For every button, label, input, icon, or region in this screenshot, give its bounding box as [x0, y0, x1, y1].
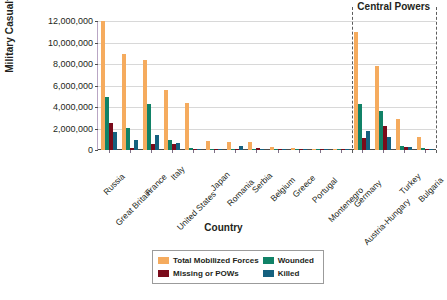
bar — [324, 149, 328, 150]
y-axis-tick-label: 4,000,000 — [53, 102, 93, 112]
legend-item[interactable]: Missing or POWs — [158, 269, 259, 278]
central-powers-divider-left — [352, 7, 353, 153]
bar — [126, 128, 130, 150]
bar-group — [183, 21, 204, 150]
bar — [155, 135, 159, 150]
legend-swatch — [158, 257, 169, 264]
y-axis-tick-label: 8,000,000 — [53, 59, 93, 69]
bar-groups — [98, 21, 436, 150]
y-axis-title-label: Military Casualties — [4, 0, 15, 88]
bar-group — [246, 21, 267, 150]
bar — [185, 103, 189, 150]
bar-group — [330, 21, 351, 150]
bar-group — [161, 21, 182, 150]
legend-item[interactable]: Killed — [263, 269, 318, 278]
bar-group — [415, 21, 436, 150]
legend-label: Total Mobilized Forces — [173, 256, 259, 265]
chart-legend: Total Mobilized ForcesWoundedMissing or … — [152, 250, 324, 284]
bar — [260, 149, 264, 150]
bar — [113, 132, 117, 150]
x-axis-tick-labels: RussiaGreat BritainFranceItalyUnited Sta… — [97, 153, 436, 213]
bar-group — [267, 21, 288, 150]
central-powers-label: Central Powers — [352, 1, 437, 12]
legend-item[interactable]: Total Mobilized Forces — [158, 256, 259, 265]
bar — [147, 104, 151, 150]
legend-item[interactable]: Wounded — [263, 256, 318, 265]
legend-swatch — [263, 257, 274, 264]
legend-label: Wounded — [278, 256, 314, 265]
bar — [282, 149, 286, 150]
chart-figure: Military Casualties 02,000,0004,000,0006… — [0, 0, 447, 300]
x-axis-title: Country — [0, 222, 447, 233]
bar — [345, 149, 349, 150]
legend-swatch — [263, 270, 274, 277]
bar — [134, 140, 138, 150]
bar — [239, 146, 243, 150]
x-axis-tick-label: Serbia — [250, 170, 274, 194]
bar — [366, 131, 370, 150]
legend-swatch — [158, 270, 169, 277]
x-axis-title-label: Country — [204, 222, 242, 233]
legend-label: Missing or POWs — [173, 269, 239, 278]
plot-area: 02,000,0004,000,0006,000,0008,000,00010,… — [97, 21, 436, 150]
bar-group — [288, 21, 309, 150]
bar-group — [98, 21, 119, 150]
x-axis-tick-label: Italy — [169, 164, 187, 182]
x-axis-tick-label: Russia — [101, 171, 126, 196]
bar — [303, 149, 307, 150]
bar-group — [204, 21, 225, 150]
x-axis-tick-label: France — [143, 172, 169, 198]
bar-group — [394, 21, 415, 150]
bar — [387, 137, 391, 150]
bar-group — [309, 21, 330, 150]
x-axis-tick-label: Japan — [208, 169, 231, 192]
y-axis-tick-mark — [95, 150, 98, 151]
bar-group — [373, 21, 394, 150]
bar — [197, 149, 201, 150]
central-powers-divider-right — [436, 7, 437, 153]
y-axis-tick-label: 10,000,000 — [48, 38, 93, 48]
bar-group — [225, 21, 246, 150]
bar — [429, 149, 433, 150]
bar-group — [119, 21, 140, 150]
bar — [218, 149, 222, 150]
bar — [408, 147, 412, 150]
bar — [176, 143, 180, 150]
bar-group — [140, 21, 161, 150]
y-axis-tick-label: 0 — [88, 145, 93, 155]
bar-group — [352, 21, 373, 150]
y-axis-tick-label: 6,000,000 — [53, 81, 93, 91]
y-axis-tick-label: 2,000,000 — [53, 124, 93, 134]
legend-label: Killed — [278, 269, 300, 278]
y-axis-title: Military Casualties — [4, 0, 20, 28]
y-axis-tick-label: 12,000,000 — [48, 16, 93, 26]
x-axis-tick-label: Romania — [225, 177, 256, 208]
